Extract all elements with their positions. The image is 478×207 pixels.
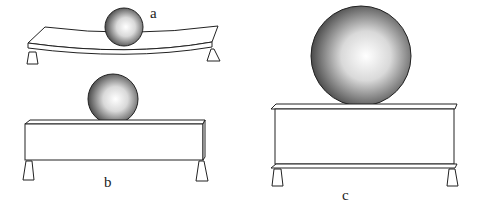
beam-b-top xyxy=(25,120,205,124)
beam-c-web xyxy=(275,109,454,164)
panel-a xyxy=(27,8,220,64)
beam-c-top-flange xyxy=(271,104,457,109)
support-left-b xyxy=(23,161,34,180)
support-left-a xyxy=(27,52,38,64)
sphere-b xyxy=(88,74,138,124)
label-a: a xyxy=(150,5,157,21)
support-right-a xyxy=(207,49,220,61)
beam-c-bottom-flange xyxy=(271,164,457,168)
support-right-b xyxy=(196,161,208,181)
panel-c xyxy=(271,6,458,186)
panel-b xyxy=(23,74,208,181)
beam-b-side xyxy=(203,120,205,160)
sphere-c xyxy=(311,6,411,106)
beam-b-front xyxy=(25,124,203,160)
support-left-c xyxy=(272,169,283,186)
support-right-c xyxy=(447,169,458,186)
label-c: c xyxy=(342,187,349,203)
beam-diagram: a b c xyxy=(0,0,478,207)
sphere-a xyxy=(105,8,143,46)
label-b: b xyxy=(104,174,112,190)
